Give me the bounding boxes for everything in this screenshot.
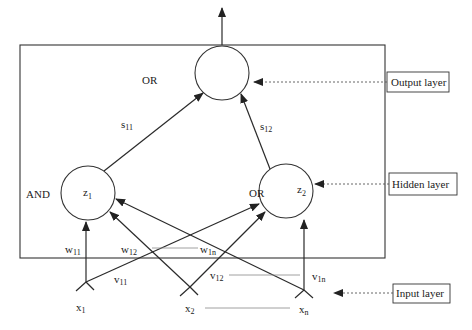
weight-s11: s11 <box>121 118 133 132</box>
input-label-x1: x1 <box>76 301 86 315</box>
input-node-xn <box>295 290 313 298</box>
weight-v1n: v1n <box>312 270 326 284</box>
hidden-gate-and: AND <box>26 188 50 200</box>
weight-s12: s12 <box>260 120 272 134</box>
output-node <box>195 46 249 100</box>
output-gate-label: OR <box>142 74 158 86</box>
input-node-x1 <box>76 282 94 291</box>
input-layer-label: Input layer <box>396 287 444 299</box>
weight-w11: w11 <box>65 243 81 257</box>
input-label-xn: xn <box>299 303 309 317</box>
weight-v12: v12 <box>210 269 224 283</box>
input-node-x2 <box>180 287 198 296</box>
weight-w1n: w1n <box>200 243 216 257</box>
edge-z1-to-y <box>104 93 203 171</box>
weight-w12: w12 <box>121 243 137 257</box>
hidden-layer-label: Hidden layer <box>392 178 449 190</box>
weight-v11: v11 <box>114 273 127 287</box>
output-layer-label: Output layer <box>391 76 447 88</box>
input-label-x2: x2 <box>185 302 195 316</box>
hidden-gate-or: OR <box>249 187 265 199</box>
input-layer-callout: Input layer <box>334 284 450 303</box>
neural-network-diagram: y OR z1 AND z2 OR s11 s12 x1 x2 xn w11 w… <box>0 0 472 330</box>
output-layer-callout: Output layer <box>254 72 449 92</box>
hidden-layer-callout: Hidden layer <box>315 173 457 195</box>
